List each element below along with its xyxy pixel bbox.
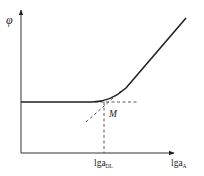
y-axis-label: φ [6,13,13,27]
response-curve [21,18,186,102]
point-label-m: M [108,109,118,119]
dashed-guides [86,91,138,153]
x-axis-label: lgaA [171,158,187,169]
electrode-response-diagram: φ M lgaDL lgaA [0,0,204,176]
tick-label-lgaDL: lgaDL [94,158,114,169]
